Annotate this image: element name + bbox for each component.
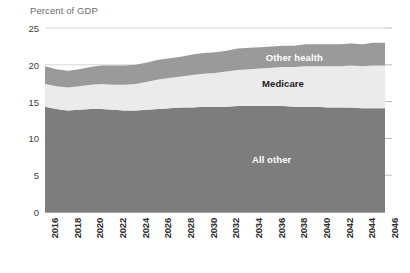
x-tick-label-2038: 2038 <box>298 218 309 238</box>
x-tick-label-2042: 2042 <box>344 218 355 238</box>
x-tick-label-2040: 2040 <box>321 218 332 238</box>
band-label-other-health: Other health <box>266 52 323 63</box>
plot-area: 0510152025201620182020202220242026202820… <box>0 0 410 273</box>
y-tick-label-10: 10 <box>15 133 39 144</box>
y-tick-label-5: 5 <box>15 170 39 181</box>
x-tick-label-2032: 2032 <box>230 218 241 238</box>
x-tick-label-2020: 2020 <box>94 218 105 238</box>
y-tick-label-25: 25 <box>15 23 39 34</box>
band-label-all-other: All other <box>252 154 291 165</box>
x-tick-label-2028: 2028 <box>185 218 196 238</box>
x-tick-label-2034: 2034 <box>253 218 264 238</box>
chart-page: Percent of GDP 0510152025201620182020202… <box>0 0 410 273</box>
x-tick-label-2024: 2024 <box>140 218 151 238</box>
y-tick-label-20: 20 <box>15 59 39 70</box>
x-tick-label-2046: 2046 <box>389 218 400 238</box>
band-label-medicare: Medicare <box>262 78 304 89</box>
x-tick-label-2018: 2018 <box>72 218 83 238</box>
x-tick-label-2030: 2030 <box>208 218 219 238</box>
area-band-all-other <box>45 106 385 212</box>
x-tick-label-2044: 2044 <box>366 218 377 238</box>
x-tick-label-2036: 2036 <box>276 218 287 238</box>
y-tick-label-15: 15 <box>15 96 39 107</box>
x-tick-label-2016: 2016 <box>49 218 60 238</box>
x-tick-label-2026: 2026 <box>162 218 173 238</box>
x-tick-label-2022: 2022 <box>117 218 128 238</box>
y-tick-label-0: 0 <box>15 207 39 218</box>
